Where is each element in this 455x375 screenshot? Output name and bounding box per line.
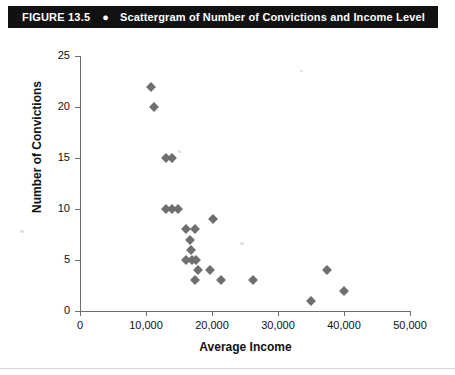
x-axis-title: Average Income [80, 340, 411, 354]
data-point [149, 102, 159, 112]
x-tick-10000 [146, 311, 147, 316]
data-point [248, 275, 258, 285]
y-axis-line [80, 56, 81, 312]
data-point [205, 265, 215, 275]
data-point [322, 265, 332, 275]
scan-speck [20, 230, 24, 233]
x-tick-label-0: 0 [45, 319, 115, 331]
scan-speck [178, 150, 181, 153]
data-point [146, 82, 156, 92]
y-tick-label-0: 0 [30, 304, 70, 316]
y-tick-25 [75, 56, 80, 57]
x-tick-40000 [344, 311, 345, 316]
scan-speck [300, 70, 303, 72]
x-tick-label-50000: 50,000 [375, 319, 445, 331]
x-tick-label-30000: 30,000 [243, 319, 313, 331]
data-point [208, 214, 218, 224]
data-point [193, 265, 203, 275]
x-tick-label-40000: 40,000 [309, 319, 379, 331]
x-tick-20000 [212, 311, 213, 316]
x-tick-label-20000: 20,000 [177, 319, 247, 331]
scatter-chart: 25 20 15 10 5 0 0 10,000 20,000 30,000 4… [0, 30, 455, 375]
data-point [185, 235, 195, 245]
x-axis-line [80, 311, 411, 312]
x-tick-30000 [278, 311, 279, 316]
x-tick-50000 [410, 311, 411, 316]
data-point [339, 286, 349, 296]
scan-speck [240, 242, 244, 245]
figure-header-banner: FIGURE 13.5 ● Scattergram of Number of C… [8, 6, 438, 28]
data-point [216, 275, 226, 285]
figure-number: FIGURE 13.5 [22, 11, 90, 23]
y-tick-5 [75, 260, 80, 261]
data-point [306, 296, 316, 306]
x-tick-label-10000: 10,000 [111, 319, 181, 331]
y-tick-20 [75, 107, 80, 108]
data-point [181, 224, 191, 234]
data-point [186, 245, 196, 255]
y-tick-label-5: 5 [30, 253, 70, 265]
y-tick-15 [75, 158, 80, 159]
data-point [190, 224, 200, 234]
data-point [167, 153, 177, 163]
y-tick-10 [75, 209, 80, 210]
figure-title: Scattergram of Number of Convictions and… [120, 11, 425, 23]
data-point [190, 275, 200, 285]
x-tick-0 [80, 311, 81, 316]
page-bottom-rule [0, 368, 455, 369]
data-point [173, 204, 183, 214]
y-axis-title: Number of Convictions [30, 47, 44, 247]
bullet-dot-icon: ● [102, 12, 109, 23]
